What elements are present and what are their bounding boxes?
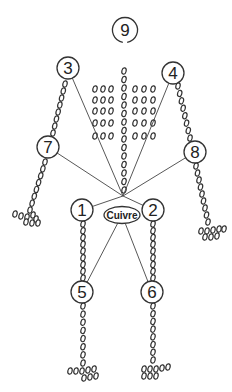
bead — [29, 219, 35, 226]
bead — [214, 232, 220, 239]
point-label: 6 — [147, 283, 156, 302]
bead — [121, 169, 127, 176]
point-9: 9 — [113, 17, 138, 42]
point-2: 2 — [142, 199, 164, 221]
bead — [18, 212, 24, 219]
point-label: 8 — [190, 143, 199, 162]
bead — [50, 129, 56, 136]
bead — [80, 351, 86, 358]
bead — [100, 96, 106, 103]
bead — [208, 233, 214, 240]
bead — [100, 85, 106, 92]
point-label: 5 — [77, 283, 86, 302]
bead — [92, 85, 98, 92]
bead — [100, 132, 106, 139]
bead — [92, 96, 98, 103]
bead — [80, 268, 86, 275]
bead — [121, 101, 127, 108]
bead — [80, 227, 86, 234]
point-8: 8 — [184, 141, 206, 163]
bead — [150, 85, 156, 92]
bead — [91, 365, 97, 372]
bead — [150, 247, 156, 254]
bead — [80, 254, 86, 261]
bead — [108, 107, 114, 114]
bead — [150, 341, 156, 348]
bead — [153, 372, 159, 379]
bead — [57, 101, 63, 108]
bead — [100, 107, 106, 114]
bead — [187, 134, 193, 141]
bead — [150, 310, 156, 317]
bead — [204, 211, 210, 218]
bead — [150, 227, 156, 234]
bead — [121, 127, 127, 134]
cuivre-node: Cuivre — [104, 207, 140, 224]
bead — [79, 367, 85, 374]
bead — [210, 226, 216, 233]
bead — [150, 107, 156, 114]
bead — [59, 94, 65, 101]
bead — [182, 112, 188, 119]
bead — [80, 335, 86, 342]
bead — [202, 233, 208, 240]
point-5: 5 — [71, 281, 93, 303]
bead — [121, 84, 127, 91]
bead — [132, 85, 138, 92]
bead — [150, 132, 156, 139]
bead — [34, 186, 40, 193]
bead — [199, 190, 205, 197]
bead — [147, 365, 153, 372]
bead — [150, 261, 156, 268]
connection-line-cuivre-5 — [87, 223, 118, 282]
cuivre-label: Cuivre — [106, 210, 138, 221]
point-label: 4 — [168, 64, 177, 83]
bead — [108, 96, 114, 103]
bead — [141, 365, 147, 372]
bead — [80, 319, 86, 326]
connection-line-hub-3 — [72, 78, 123, 196]
bead — [60, 87, 66, 94]
point-label: 1 — [77, 201, 86, 220]
bead — [150, 349, 156, 356]
bead — [216, 225, 222, 232]
bead — [147, 372, 153, 379]
bead — [36, 179, 42, 186]
bead — [150, 254, 156, 261]
bead — [198, 227, 204, 234]
bead — [196, 176, 202, 183]
bead — [108, 132, 114, 139]
bead — [185, 127, 191, 134]
bead — [198, 183, 204, 190]
bead — [80, 234, 86, 241]
bead — [221, 225, 227, 232]
bead — [80, 343, 86, 350]
bead — [80, 327, 86, 334]
bead-chains — [12, 67, 227, 381]
connection-lines — [57, 78, 185, 282]
connection-line-cuivre-6 — [125, 223, 148, 281]
bead — [150, 234, 156, 241]
connection-line-hub-2 — [123, 196, 143, 205]
point-1: 1 — [71, 199, 93, 221]
bead — [67, 367, 73, 374]
bead — [121, 152, 127, 159]
point-label: 3 — [63, 59, 72, 78]
bead — [100, 119, 106, 126]
bead — [54, 115, 60, 122]
point-4: 4 — [162, 62, 184, 84]
point-label: 9 — [120, 21, 129, 40]
bead — [150, 356, 156, 363]
bead — [80, 311, 86, 318]
bead — [150, 318, 156, 325]
bead — [108, 119, 114, 126]
bead — [121, 67, 127, 74]
bead — [201, 197, 207, 204]
bead — [81, 374, 87, 381]
bead — [150, 326, 156, 333]
bead — [121, 178, 127, 185]
bead — [132, 107, 138, 114]
bead — [179, 97, 185, 104]
bead — [141, 119, 147, 126]
connection-line-hub-1 — [92, 196, 123, 206]
